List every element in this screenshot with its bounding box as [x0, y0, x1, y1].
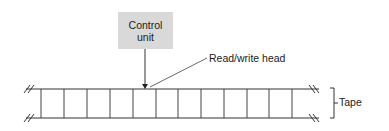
control-unit-label-line1: Control — [129, 19, 163, 31]
turing-machine-diagram — [0, 0, 389, 131]
break-mark-left-icon — [24, 85, 34, 122]
arrow-down-icon — [142, 84, 148, 89]
tape-bracket-icon — [330, 88, 338, 118]
control-unit-box: Control unit — [118, 12, 173, 49]
read-write-head-label: Read/write head — [209, 52, 285, 64]
read-write-head-leader — [150, 58, 207, 87]
tape-label: Tape — [339, 96, 362, 108]
tape-cell-dividers — [41, 89, 292, 118]
control-unit-label-line2: unit — [137, 31, 154, 43]
break-mark-right-icon — [309, 85, 319, 122]
